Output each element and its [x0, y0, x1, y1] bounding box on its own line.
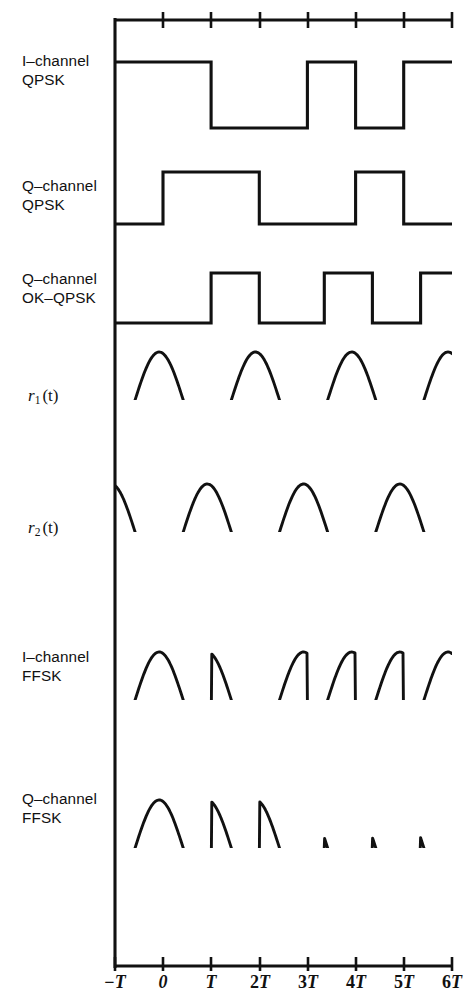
trace-i-channel-ffsk [115, 652, 452, 748]
x-tick-label: −T [104, 972, 125, 993]
row-label-i-channel-qpsk: I–channel QPSK [22, 52, 89, 89]
row-label-line: QPSK [22, 71, 89, 90]
row-label-line: Q–channel [22, 790, 97, 809]
row-label-q-channel-ffsk: Q–channel FFSK [22, 790, 97, 827]
plot-canvas [0, 0, 469, 1003]
r2-argument: (t) [40, 518, 58, 537]
row-label-line: Q–channel [22, 270, 97, 289]
trace-q-channel-qpsk [115, 172, 452, 224]
x-tick-label: 0 [159, 972, 168, 993]
x-tick-label: 6T [442, 972, 462, 993]
traces-layer [115, 62, 452, 896]
row-label-line: I–channel [22, 52, 89, 71]
waveform-figure: I–channel QPSK Q–channel QPSK Q–channel … [0, 0, 469, 1003]
r1-argument: (t) [40, 386, 58, 405]
row-label-line: FFSK [22, 809, 97, 828]
trace-i-channel-qpsk [115, 62, 452, 128]
r2-base: r [28, 518, 35, 537]
x-tick-label: 5T [394, 972, 414, 993]
row-label-line: Q–channel [22, 177, 97, 196]
x-tick-label: 4T [346, 972, 366, 993]
trace-r2-t [115, 484, 452, 580]
trace-q-channel-ffsk [115, 800, 452, 896]
row-label-q-channel-ok-qpsk: Q–channel OK–QPSK [22, 270, 97, 307]
x-tick-label: 2T [250, 972, 270, 993]
x-tick-label: 3T [298, 972, 318, 993]
row-label-r2-t: r2(t) [28, 518, 58, 538]
row-label-line: I–channel [22, 648, 89, 667]
row-label-r1-t: r1(t) [28, 386, 58, 406]
row-label-q-channel-qpsk: Q–channel QPSK [22, 177, 97, 214]
x-tick-label: T [206, 972, 217, 993]
trace-r1-t [115, 352, 452, 448]
r1-base: r [28, 386, 35, 405]
trace-q-channel-ok-qpsk [115, 273, 452, 323]
axes-layer [115, 12, 452, 971]
row-label-i-channel-ffsk: I–channel FFSK [22, 648, 89, 685]
row-label-line: FFSK [22, 667, 89, 686]
row-label-line: OK–QPSK [22, 289, 97, 308]
row-label-line: QPSK [22, 196, 97, 215]
